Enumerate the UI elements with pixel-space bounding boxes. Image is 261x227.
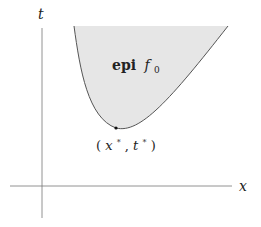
optimal-point-label: ( x * , t * ) [96,133,156,153]
epigraph-label: epi f 0 [112,57,160,75]
function-subscript: 0 [154,65,160,75]
point-t-star: * [142,138,146,147]
point-x-star: * [117,138,121,147]
function-name: f [143,57,152,73]
point-comma: , [125,138,133,153]
paren-open: ( [96,138,101,153]
paren-close: ) [151,138,156,153]
epigraph-region [74,26,228,129]
point-t: t [133,138,139,153]
epi-text: epi [112,57,136,73]
optimal-point-marker [114,126,117,129]
point-x: x [105,138,113,153]
t-axis-label: t [38,6,44,22]
x-axis-label: x [239,178,247,194]
epigraph-diagram: t x epi f 0 ( x * , t * ) [0,0,261,227]
